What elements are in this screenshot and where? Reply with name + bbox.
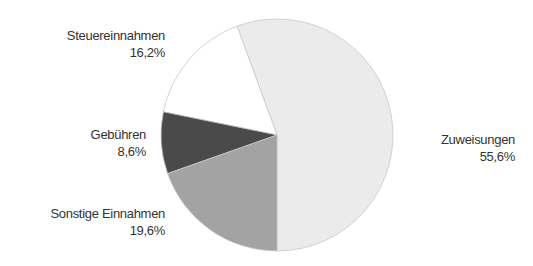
- label-zuweisungen: Zuweisungen 55,6%: [420, 131, 515, 165]
- label-value: 19,6%: [10, 222, 165, 239]
- label-value: 8,6%: [20, 143, 146, 160]
- label-text: Steuereinnahmen: [20, 27, 165, 44]
- label-gebuehren: Gebühren 8,6%: [20, 126, 146, 160]
- label-sonstige-einnahmen: Sonstige Einnahmen 19,6%: [10, 205, 165, 239]
- label-text: Gebühren: [20, 126, 146, 143]
- label-value: 55,6%: [420, 148, 515, 165]
- label-text: Zuweisungen: [420, 131, 515, 148]
- label-steuereinnahmen: Steuereinnahmen 16,2%: [20, 27, 165, 61]
- label-text: Sonstige Einnahmen: [10, 205, 165, 222]
- label-value: 16,2%: [20, 44, 165, 61]
